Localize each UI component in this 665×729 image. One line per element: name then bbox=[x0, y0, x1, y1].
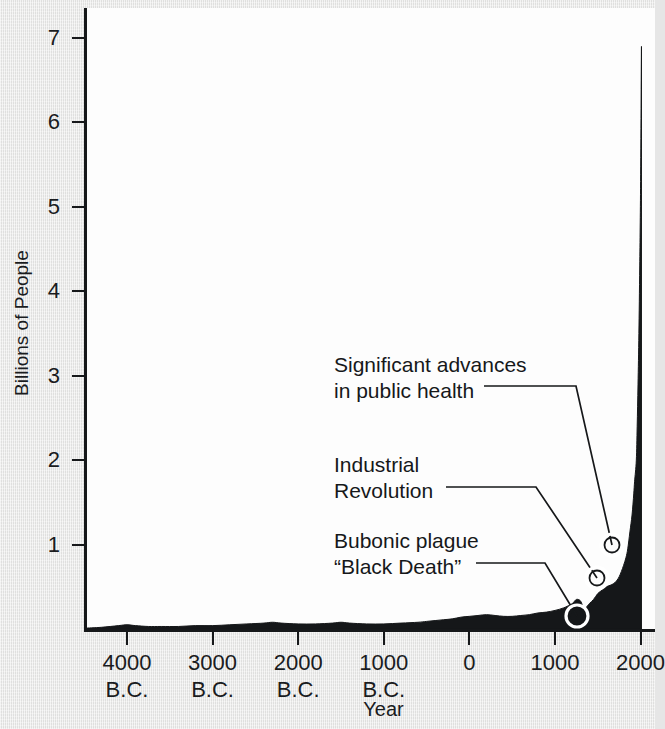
x-axis-title-text: Year bbox=[363, 698, 403, 720]
y-tick-label-3: 3 bbox=[34, 365, 60, 387]
y-axis-title: Billions of People bbox=[11, 223, 33, 423]
y-tick-6 bbox=[72, 121, 85, 123]
y-tick-4 bbox=[72, 290, 85, 292]
y-tick-5 bbox=[72, 206, 85, 208]
y-tick-7 bbox=[72, 37, 85, 39]
x-tick--4000 bbox=[126, 632, 128, 645]
x-tick-label--1000: 1000 B.C. bbox=[359, 650, 408, 704]
annotation-label-industrial-revolution: Industrial Revolution bbox=[334, 452, 433, 503]
x-tick--1000 bbox=[383, 632, 385, 645]
x-tick-label--2000: 2000 B.C. bbox=[274, 650, 323, 704]
x-axis-line bbox=[84, 629, 655, 632]
x-tick-2000 bbox=[640, 632, 642, 645]
y-tick-2 bbox=[72, 459, 85, 461]
y-tick-label-6: 6 bbox=[34, 111, 60, 133]
y-tick-label-1: 1 bbox=[34, 534, 60, 556]
x-tick-1000 bbox=[554, 632, 556, 645]
y-tick-label-2: 2 bbox=[34, 449, 60, 471]
x-tick-label--4000: 4000 B.C. bbox=[103, 650, 152, 704]
x-tick-label-0: 0 bbox=[463, 650, 475, 677]
x-tick-label--3000: 3000 B.C. bbox=[188, 650, 237, 704]
x-tick-0 bbox=[468, 632, 470, 645]
y-tick-label-4: 4 bbox=[34, 280, 60, 302]
annotation-label-public-health: Significant advances in public health bbox=[334, 352, 527, 403]
x-tick--3000 bbox=[212, 632, 214, 645]
x-tick-label-1000: 1000 bbox=[531, 650, 580, 677]
y-tick-label-7: 7 bbox=[34, 27, 60, 49]
x-tick--2000 bbox=[297, 632, 299, 645]
annotation-label-black-death: Bubonic plague “Black Death” bbox=[334, 528, 479, 579]
x-tick-label-2000: 2000 bbox=[616, 650, 665, 677]
x-axis-title: Year bbox=[0, 698, 655, 721]
y-tick-label-5: 5 bbox=[34, 196, 60, 218]
y-tick-1 bbox=[72, 544, 85, 546]
y-tick-3 bbox=[72, 375, 85, 377]
